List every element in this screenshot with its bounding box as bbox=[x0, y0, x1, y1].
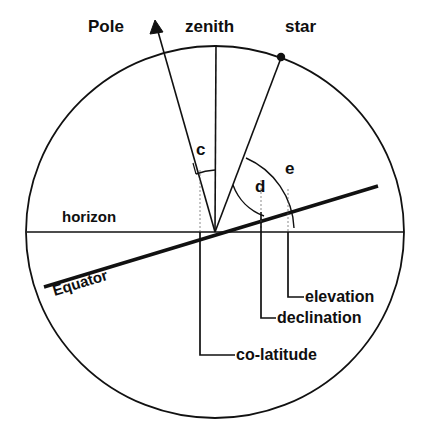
label-star: star bbox=[285, 18, 316, 35]
label-elevation: elevation bbox=[305, 289, 374, 305]
label-pole: Pole bbox=[88, 18, 124, 35]
pole-ray bbox=[157, 28, 215, 232]
pole-arrowhead-icon bbox=[150, 20, 163, 34]
leader-line-co-latitude bbox=[200, 232, 235, 355]
star-dot-icon bbox=[277, 53, 285, 61]
zenith-ray bbox=[215, 45, 216, 232]
angle-arc-c bbox=[196, 170, 215, 174]
star-ray bbox=[215, 58, 281, 232]
label-angle-e: e bbox=[285, 160, 294, 177]
label-horizon: horizon bbox=[62, 209, 116, 224]
leader-line-elevation bbox=[288, 232, 304, 297]
label-declination: declination bbox=[277, 310, 361, 326]
label-angle-d: d bbox=[255, 178, 265, 195]
leader-line-declination bbox=[261, 212, 276, 318]
label-zenith: zenith bbox=[185, 18, 234, 35]
label-angle-c: c bbox=[196, 141, 205, 158]
label-co-latitude: co-latitude bbox=[236, 347, 317, 363]
celestial-sphere-diagram: Pole zenith star c d e horizon Equator e… bbox=[0, 0, 426, 445]
